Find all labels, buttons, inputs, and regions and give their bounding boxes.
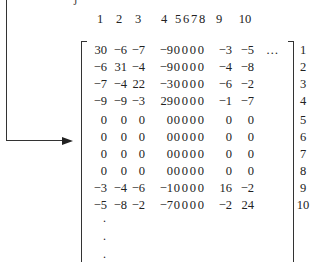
matrix-cell: 0 [174,147,180,162]
matrix-cell: 0 [174,164,180,179]
matrix-cell: 0 [182,198,188,213]
matrix-cell: 0 [198,181,204,196]
matrix-cell: 0 [190,164,196,179]
connector-vertical-line [6,0,7,141]
matrix-cell: 0 [121,164,127,179]
matrix-cell: 0 [174,60,180,75]
matrix-cell: 0 [226,164,232,179]
row-label: 4 [295,94,311,109]
matrix-cell: 0 [182,181,188,196]
matrix-cell: 0 [190,147,196,162]
matrix-right-bracket [288,41,294,262]
matrix-cell: 0 [190,181,196,196]
matrix-cell: 0 [226,113,232,128]
column-header: 2 [109,12,129,27]
matrix-cell: 0 [198,164,204,179]
matrix-cell: 31 [115,60,128,75]
matrix-cell: 0 [226,147,232,162]
matrix-cell: 0 [198,77,204,92]
row-label: 5 [295,113,311,128]
matrix-cell: 0 [190,130,196,145]
matrix-cell: 0 [101,130,107,145]
matrix-cell: 0 [198,113,204,128]
matrix-cell: −6 [94,60,107,75]
matrix-cell: −3 [160,77,173,92]
matrix-cell: 0 [174,94,180,109]
row-label: 1 [295,43,311,58]
continuation-dot: . [103,230,106,242]
row-label: 9 [295,181,311,196]
row-label: 7 [295,147,311,162]
matrix-cell: −2 [132,198,145,213]
matrix-cell: −7 [94,77,107,92]
row-label: 10 [295,198,311,213]
column-header: 3 [128,12,148,27]
matrix-cell: −8 [241,60,254,75]
matrix-cell: −6 [132,181,145,196]
matrix-cell: 0 [174,77,180,92]
matrix-cell: −9 [114,94,127,109]
matrix-cell: 0 [167,164,173,179]
matrix-cell: 0 [248,130,254,145]
matrix-cell: 0 [190,198,196,213]
matrix-cell: 0 [174,43,180,58]
matrix-cell: 0 [198,147,204,162]
matrix-cell: 0 [182,77,188,92]
row-continuation-ellipsis: … [266,43,279,58]
matrix-cell: 24 [242,198,255,213]
column-header: 10 [235,12,255,27]
matrix-cell: 0 [167,147,173,162]
matrix-cell: −6 [114,43,127,58]
row-label: 3 [295,77,311,92]
matrix-cell: 0 [121,130,127,145]
matrix-cell: 0 [174,113,180,128]
matrix-cell: 0 [198,198,204,213]
row-label: 2 [295,60,311,75]
matrix-cell: 0 [174,181,180,196]
matrix-cell: 0 [190,60,196,75]
matrix-cell: 0 [248,113,254,128]
matrix-left-bracket [81,41,87,262]
matrix-cell: 0 [121,113,127,128]
matrix-cell: −2 [219,198,232,213]
cropped-text-fragment: j [74,0,77,6]
continuation-dot: . [103,248,106,260]
column-header: 1 [90,12,110,27]
row-label: 8 [295,164,311,179]
matrix-cell: 0 [198,43,204,58]
matrix-cell: −4 [219,60,232,75]
matrix-cell: 0 [182,60,188,75]
matrix-cell: −4 [114,77,127,92]
matrix-cell: 0 [101,147,107,162]
matrix-cell: 0 [226,130,232,145]
matrix-cell: 0 [190,94,196,109]
row-label: 6 [295,130,311,145]
matrix-cell: 0 [190,43,196,58]
matrix-cell: 0 [198,94,204,109]
matrix-cell: 0 [198,60,204,75]
matrix-cell: −5 [241,43,254,58]
matrix-cell: 0 [190,77,196,92]
matrix-cell: −2 [241,77,254,92]
matrix-cell: −3 [132,94,145,109]
matrix-cell: −7 [160,198,173,213]
matrix-cell: −6 [219,77,232,92]
matrix-cell: −3 [219,43,232,58]
matrix-cell: 0 [139,147,145,162]
matrix-cell: 22 [133,77,146,92]
matrix-cell: 0 [182,164,188,179]
matrix-cell: −7 [241,94,254,109]
matrix-cell: −9 [160,43,173,58]
matrix-cell: 30 [95,43,108,58]
matrix-cell: −4 [114,181,127,196]
matrix-cell: 0 [174,130,180,145]
matrix-cell: 0 [182,94,188,109]
matrix-cell: 0 [198,130,204,145]
matrix-cell: −4 [132,60,145,75]
matrix-cell: 0 [121,147,127,162]
matrix-cell: 0 [139,130,145,145]
matrix-cell: 29 [161,94,174,109]
matrix-cell: 0 [139,113,145,128]
matrix-cell: 0 [182,43,188,58]
matrix-cell: −1 [219,94,232,109]
